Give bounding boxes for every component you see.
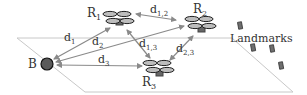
base-label: B xyxy=(28,57,37,71)
localization-diagram: d1 d2 d3 d1,2 d1,3 d2,3 B R1 R2 xyxy=(0,0,307,95)
label-d2: d2 xyxy=(92,35,104,50)
label-d1: d1 xyxy=(64,31,76,46)
robot-r2-label: R2 xyxy=(193,2,207,18)
label-d12: d1,2 xyxy=(150,3,168,18)
robot-r1: R1 xyxy=(87,6,134,25)
quadrotor-icon xyxy=(143,60,174,76)
landmark-icon xyxy=(238,22,243,30)
landmarks-label: Landmarks xyxy=(230,32,293,45)
base-station: B xyxy=(28,57,53,71)
robot-r3: R3 xyxy=(142,60,174,91)
landmarks xyxy=(238,22,284,70)
label-d3: d3 xyxy=(98,53,110,68)
quadrotor-icon xyxy=(103,11,134,25)
quadrotor-icon xyxy=(185,16,216,32)
robot-r2: R2 xyxy=(185,2,216,32)
base-circle-icon xyxy=(41,58,53,70)
landmark-icon xyxy=(279,62,284,70)
robot-r1-label: R1 xyxy=(87,6,101,22)
diagram-svg: d1 d2 d3 d1,2 d1,3 d2,3 B R1 R2 xyxy=(0,0,307,95)
label-d13: d1,3 xyxy=(139,37,157,52)
landmark-icon xyxy=(270,45,275,53)
robot-r3-label: R3 xyxy=(142,75,156,91)
